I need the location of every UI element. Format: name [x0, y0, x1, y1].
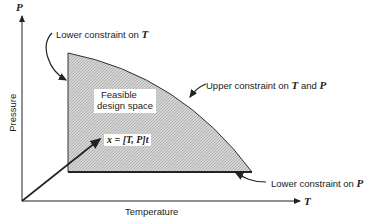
lower-T-annotation: Lower constraint on T	[56, 29, 148, 40]
upper-pointer	[190, 84, 206, 97]
y-axis-label: Pressure	[8, 94, 18, 132]
upper-annotation: Upper constraint on T and P	[206, 80, 326, 91]
feasible-region-label: Feasible design space	[94, 89, 156, 113]
x-axis-symbol: T	[304, 196, 311, 207]
lower-P-annotation: Lower constraint on P	[271, 178, 363, 189]
lower-P-pointer	[236, 173, 266, 182]
vector-label: x = [T, P]t	[104, 134, 151, 146]
y-axis-symbol: P	[16, 2, 23, 13]
feasible-label-line2: design space	[97, 101, 153, 112]
lower-T-pointer	[46, 33, 66, 80]
x-axis-label: Temperature	[125, 207, 178, 217]
